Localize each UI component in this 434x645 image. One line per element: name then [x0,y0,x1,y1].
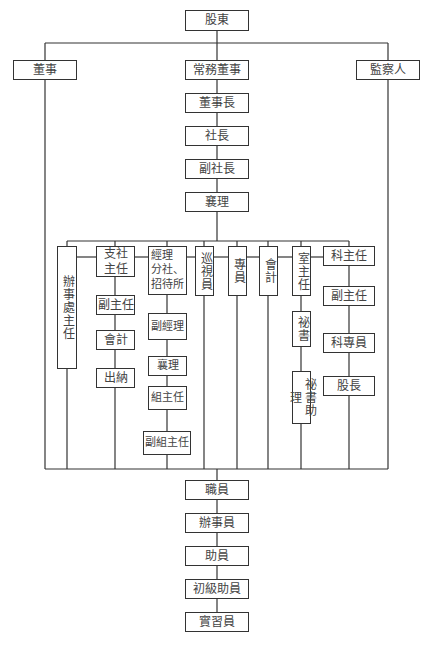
node-assistant-secretary: 祕書助理 [292,371,311,424]
node-assistant-manager: 襄理 [185,192,249,212]
node-group-head: 組主任 [148,386,187,410]
node-staff: 職員 [185,480,249,500]
node-section-head: 科主任 [323,246,375,266]
node-supervisor: 監察人 [356,60,420,80]
node-room-head: 室主任 [292,246,311,296]
node-branch-head: 支社 主任 [96,246,135,277]
node-secretary: 祕書 [292,311,311,347]
node-branch-cashier: 出納 [96,368,135,388]
node-specialist: 專員 [228,246,247,296]
node-unit-head: 股長 [323,376,375,396]
node-branch-accountant: 會計 [96,330,135,350]
node-mgr-assistant: 襄理 [148,356,187,376]
node-inspector: 巡視員 [195,246,214,296]
node-president: 社長 [185,126,249,146]
node-section-specialist: 科專員 [323,333,375,353]
node-manager: 經理 分社、 招待所 [148,246,187,295]
node-directors: 董事 [13,60,77,80]
node-accountant: 會計 [259,246,278,296]
node-section-deputy: 副主任 [323,286,375,306]
node-clerk: 辦事員 [185,513,249,533]
node-vice-president: 副社長 [185,159,249,179]
node-managing-director: 常務董事 [185,60,249,80]
node-deputy-group-head: 副組主任 [143,431,191,455]
node-junior-assistant: 初級助員 [185,579,249,599]
node-shareholders: 股東 [185,10,249,31]
node-office-head: 辦事處主任 [57,246,77,369]
node-chairman: 董事長 [185,93,249,113]
node-intern: 實習員 [185,612,249,632]
node-branch-deputy: 副主任 [96,295,135,315]
node-assistant: 助員 [185,546,249,566]
node-deputy-manager: 副經理 [148,313,187,340]
